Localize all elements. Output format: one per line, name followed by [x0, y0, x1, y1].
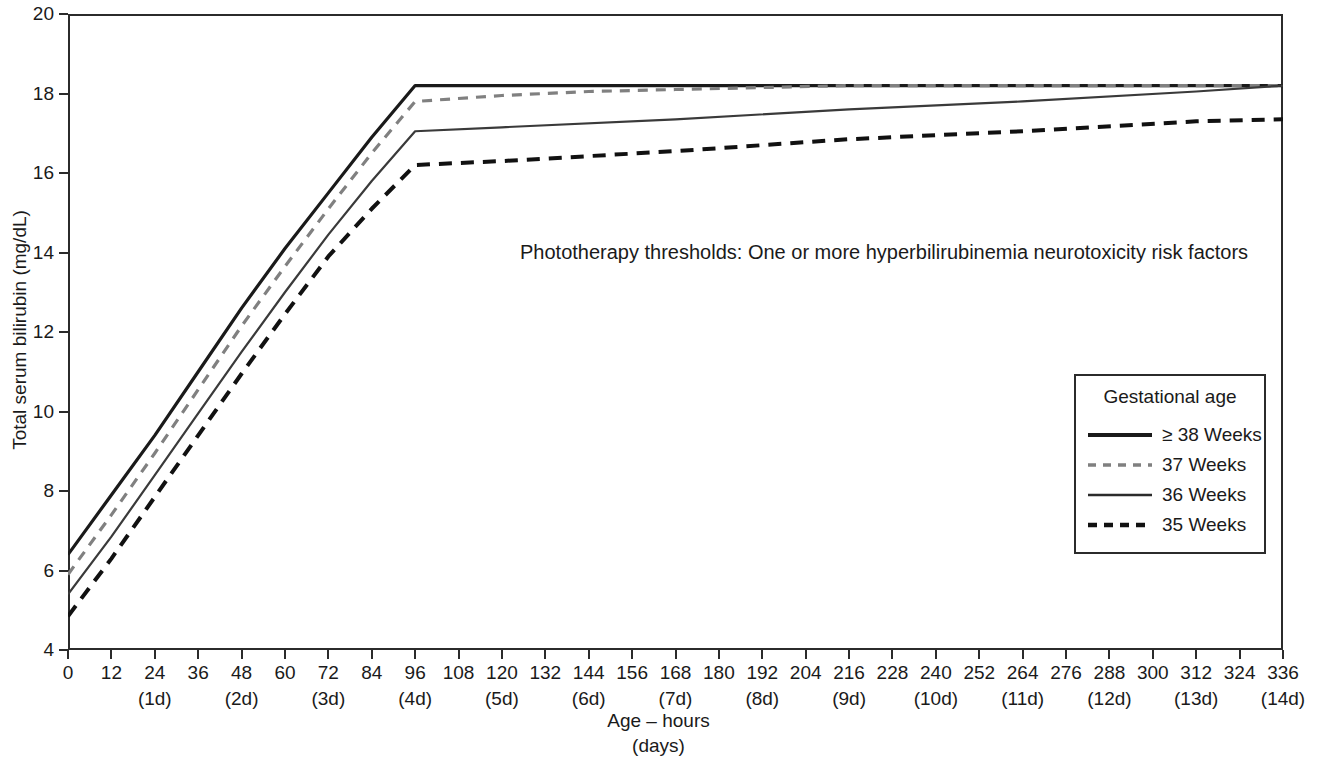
x-tick-mark [718, 650, 720, 659]
x-tick-label: 228 [877, 662, 909, 684]
series-curves [68, 14, 1283, 650]
x-tick-label: 120 [486, 662, 518, 684]
x-tick-day-label: (5d) [485, 688, 519, 710]
y-tick-mark [59, 93, 68, 95]
x-tick-label: 216 [833, 662, 865, 684]
x-tick-mark [588, 650, 590, 659]
legend-line-swatch [1088, 459, 1152, 471]
x-tick-label: 252 [963, 662, 995, 684]
y-axis-title: Total serum bilirubin (mg/dL) [9, 210, 31, 450]
x-tick-label: 240 [920, 662, 952, 684]
legend-item-label: ≥ 38 Weeks [1162, 424, 1262, 446]
x-tick-day-label: (7d) [659, 688, 693, 710]
x-tick-mark [1282, 650, 1284, 659]
x-tick-label: 48 [231, 662, 252, 684]
x-tick-day-label: (9d) [832, 688, 866, 710]
x-tick-mark [284, 650, 286, 659]
x-tick-mark [1065, 650, 1067, 659]
x-tick-mark [1152, 650, 1154, 659]
x-tick-day-label: (10d) [914, 688, 958, 710]
x-tick-label: 72 [318, 662, 339, 684]
x-tick-label: 96 [405, 662, 426, 684]
x-tick-mark [67, 650, 69, 659]
x-tick-mark [1022, 650, 1024, 659]
legend-title: Gestational age [1076, 386, 1264, 408]
x-tick-label: 336 [1267, 662, 1299, 684]
x-tick-day-label: (13d) [1174, 688, 1218, 710]
legend-item: 36 Weeks [1076, 480, 1264, 510]
x-tick-label: 132 [529, 662, 561, 684]
y-tick-label: 8 [43, 480, 54, 502]
x-tick-day-label: (8d) [745, 688, 779, 710]
y-tick-mark [59, 570, 68, 572]
x-tick-day-label: (3d) [311, 688, 345, 710]
y-tick-mark [59, 252, 68, 254]
photopherapy-threshold-chart: Total serum bilirubin (mg/dL) 4681012141… [0, 0, 1317, 757]
x-tick-label: 168 [660, 662, 692, 684]
x-tick-mark [761, 650, 763, 659]
x-tick-mark [978, 650, 980, 659]
x-tick-mark [1195, 650, 1197, 659]
y-tick-mark [59, 411, 68, 413]
x-tick-label: 0 [63, 662, 74, 684]
y-tick-label: 20 [33, 3, 54, 25]
legend-item: 35 Weeks [1076, 510, 1264, 540]
x-tick-mark [501, 650, 503, 659]
x-tick-label: 204 [790, 662, 822, 684]
x-tick-day-label: (1d) [138, 688, 172, 710]
x-tick-day-label: (12d) [1087, 688, 1131, 710]
x-tick-label: 108 [443, 662, 475, 684]
x-tick-label: 12 [101, 662, 122, 684]
legend-item: 37 Weeks [1076, 450, 1264, 480]
x-tick-label: 276 [1050, 662, 1082, 684]
x-tick-mark [197, 650, 199, 659]
legend-item-label: 37 Weeks [1162, 454, 1246, 476]
x-tick-mark [848, 650, 850, 659]
y-tick-mark [59, 172, 68, 174]
y-tick-mark [59, 331, 68, 333]
x-tick-mark [935, 650, 937, 659]
x-tick-mark [327, 650, 329, 659]
y-tick-label: 18 [33, 83, 54, 105]
y-tick-label: 16 [33, 162, 54, 184]
legend-line-swatch [1088, 489, 1152, 501]
y-tick-label: 4 [43, 639, 54, 661]
x-tick-mark [458, 650, 460, 659]
x-tick-mark [891, 650, 893, 659]
legend-item: ≥ 38 Weeks [1076, 420, 1264, 450]
x-tick-label: 300 [1137, 662, 1169, 684]
x-tick-mark [154, 650, 156, 659]
x-tick-mark [241, 650, 243, 659]
y-tick-mark [59, 490, 68, 492]
legend: Gestational age ≥ 38 Weeks37 Weeks36 Wee… [1074, 374, 1266, 554]
x-tick-label: 84 [361, 662, 382, 684]
x-tick-label: 144 [573, 662, 605, 684]
x-tick-mark [371, 650, 373, 659]
x-tick-mark [414, 650, 416, 659]
x-tick-day-label: (11d) [1001, 688, 1044, 710]
x-tick-day-label: (4d) [398, 688, 432, 710]
y-tick-label: 6 [43, 560, 54, 582]
y-tick-label: 12 [33, 321, 54, 343]
legend-item-label: 35 Weeks [1162, 514, 1246, 536]
x-tick-label: 24 [144, 662, 165, 684]
x-tick-label: 156 [616, 662, 648, 684]
x-tick-mark [1108, 650, 1110, 659]
x-tick-label: 180 [703, 662, 735, 684]
x-axis-title: Age – hours (days) [0, 708, 1317, 757]
x-tick-label: 36 [188, 662, 209, 684]
x-axis-title-line2: (days) [0, 733, 1317, 757]
plot-area: 468101214161820 012243648607284961081201… [68, 14, 1283, 650]
x-tick-day-label: (2d) [225, 688, 259, 710]
legend-item-label: 36 Weeks [1162, 484, 1246, 506]
x-tick-label: 288 [1094, 662, 1126, 684]
x-tick-label: 192 [746, 662, 778, 684]
legend-line-swatch [1088, 429, 1152, 441]
x-tick-mark [110, 650, 112, 659]
y-tick-mark [59, 13, 68, 15]
x-tick-label: 312 [1180, 662, 1212, 684]
x-tick-day-label: (6d) [572, 688, 606, 710]
x-tick-label: 60 [274, 662, 295, 684]
x-tick-mark [675, 650, 677, 659]
x-tick-mark [544, 650, 546, 659]
